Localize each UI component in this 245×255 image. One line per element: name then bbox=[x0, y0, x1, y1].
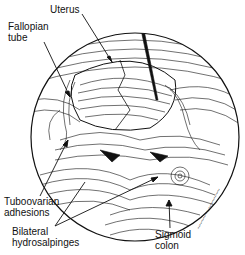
artist-signature: ~~~~~~~~~~~~ bbox=[195, 187, 223, 231]
leader-lines bbox=[40, 14, 172, 228]
label-fallopian-tube: Fallopian tube bbox=[8, 21, 49, 43]
label-uterus: Uterus bbox=[50, 4, 79, 15]
adhesions-shape bbox=[55, 133, 228, 166]
label-bilateral-hydrosalpinges: Bilateral hydrosalpinges bbox=[12, 226, 79, 248]
label-tuboovarian-adhesions: Tuboovarian adhesions bbox=[4, 196, 59, 218]
peritoneum-hatching bbox=[30, 40, 240, 124]
label-sigmoid-colon: Sigmoid colon bbox=[155, 229, 191, 251]
right-adnexa-shape bbox=[165, 85, 200, 150]
